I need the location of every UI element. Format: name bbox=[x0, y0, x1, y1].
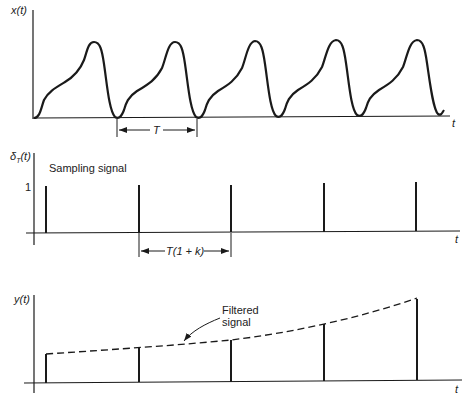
x-axis-label: t bbox=[455, 383, 459, 395]
y-axis-label: x(t) bbox=[10, 4, 27, 16]
filtered-annotation-line2: signal bbox=[222, 316, 251, 328]
unit-tick-label: 1 bbox=[25, 181, 31, 193]
y-axis-label: δT(t) bbox=[10, 150, 31, 164]
sampling-signal-title: Sampling signal bbox=[49, 162, 127, 174]
x-axis-label: t bbox=[455, 233, 459, 245]
y-axis-label: y(t) bbox=[13, 293, 30, 305]
interval-label: T(1 + k) bbox=[166, 245, 205, 257]
x-axis-label: t bbox=[452, 117, 456, 129]
x-axis bbox=[33, 116, 450, 118]
panel-sampling-signal: δT(t) Sampling signal 1 t T(1 + k) bbox=[10, 150, 460, 257]
period-label: T bbox=[153, 124, 161, 136]
x-axis bbox=[24, 380, 462, 383]
impulse-train bbox=[46, 182, 416, 233]
filtered-annotation-line1: Filtered bbox=[222, 304, 259, 316]
waveform-curve bbox=[34, 40, 444, 118]
panel-output-signal: y(t) t Filtered signal bbox=[13, 293, 462, 395]
x-axis bbox=[26, 231, 460, 233]
sampling-diagram: x(t) t T δT(t) Sampling signal 1 t T(1 +… bbox=[0, 0, 471, 408]
panel-continuous-signal: x(t) t T bbox=[10, 4, 456, 137]
annotation-arrow bbox=[184, 318, 220, 341]
